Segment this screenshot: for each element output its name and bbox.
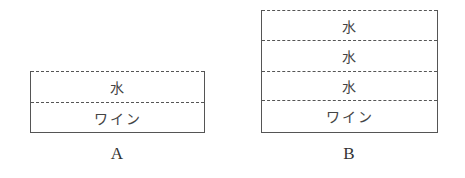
- layer-label: ワイン: [326, 106, 374, 126]
- vessel-a: 水 ワイン: [30, 71, 205, 133]
- layer-water: 水: [31, 71, 204, 102]
- layer-wine: ワイン: [262, 100, 437, 131]
- layer-water: 水: [262, 71, 437, 100]
- layer-label: 水: [342, 16, 358, 36]
- layer-label: ワイン: [94, 108, 142, 128]
- layer-water: 水: [262, 10, 437, 40]
- layer-water: 水: [262, 40, 437, 71]
- layer-label: 水: [110, 77, 126, 97]
- layer-label: 水: [342, 76, 358, 96]
- layer-wine: ワイン: [31, 102, 204, 132]
- vessel-b: 水 水 水 ワイン: [261, 10, 438, 133]
- vessel-a-caption: A: [97, 144, 137, 164]
- layer-label: 水: [342, 46, 358, 66]
- vessel-b-caption: B: [329, 144, 369, 164]
